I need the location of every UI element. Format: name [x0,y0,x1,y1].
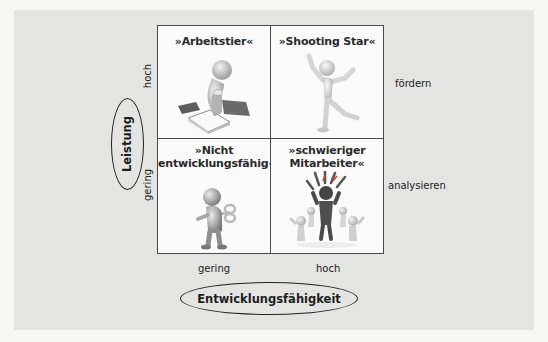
y-axis-low-label: gering [142,171,154,201]
jumping-happy-figure-icon [301,52,365,134]
angry-figure-with-group-icon [289,171,369,251]
y-axis-title-ellipse: Leistung [111,98,144,190]
x-axis-low-label: gering [198,263,230,275]
y-axis-high-label: hoch [142,61,154,91]
quadrant-arbeitstier: »Arbeitstier« [158,26,271,139]
quadrant-title: »Nicht entwicklungsfähig« [158,144,270,170]
quadrant-schwieriger-mitarbeiter: »schwieriger Mitarbeiter« [271,139,383,253]
x-axis-title-ellipse: Entwicklungsfähigkeit [180,282,358,315]
row-action-top: fördern [395,78,431,90]
row-action-bottom: analysieren [388,180,446,192]
wind-up-toy-figure-icon [192,185,242,251]
y-axis-title: Leistung [121,116,135,172]
worker-figure-with-papers-icon [172,50,258,134]
x-axis-title: Entwicklungsfähigkeit [197,292,341,306]
quadrant-nicht-entwicklungsfaehig: »Nicht entwicklungsfähig« [158,139,271,253]
matrix-grid: »Arbeitstier« »Shooting Star« [157,25,384,254]
x-axis-high-label: hoch [316,263,340,275]
quadrant-title: »Shooting Star« [271,35,383,48]
quadrant-shooting-star: »Shooting Star« [271,26,383,139]
quadrant-title: »schwieriger Mitarbeiter« [271,144,383,170]
quadrant-title: »Arbeitstier« [158,35,270,48]
